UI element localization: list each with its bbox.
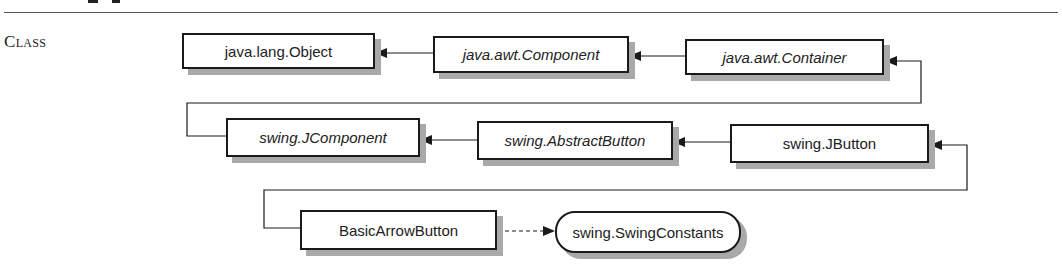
class-node-java-awt-container: java.awt.Container	[685, 39, 884, 75]
class-node-swing-abstractbutton: swing.AbstractButton	[477, 121, 673, 160]
class-node-java-lang-object: java.lang.Object	[182, 33, 375, 69]
class-node-label: java.lang.Object	[225, 43, 333, 60]
class-node-swing-jbutton: swing.JButton	[730, 124, 929, 163]
class-node-java-awt-component: java.awt.Component	[433, 36, 629, 73]
class-node-label: swing.JComponent	[259, 129, 387, 146]
class-node-label: java.awt.Component	[463, 46, 600, 63]
interface-node-swing-swingconstants: swing.SwingConstants	[555, 211, 741, 253]
class-node-swing-jcomponent: swing.JComponent	[226, 118, 420, 157]
class-node-label: BasicArrowButton	[339, 222, 458, 239]
class-node-basicarrowbutton: BasicArrowButton	[300, 210, 497, 250]
class-node-label: swing.JButton	[783, 135, 876, 152]
class-node-label: java.awt.Container	[722, 49, 846, 66]
interface-node-label: swing.SwingConstants	[573, 224, 724, 241]
class-node-label: swing.AbstractButton	[505, 132, 646, 149]
